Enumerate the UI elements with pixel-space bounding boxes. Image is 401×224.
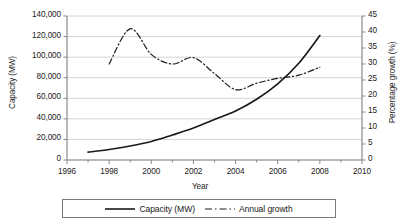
y-axis-right-tick-label: 0 xyxy=(368,154,401,163)
y-axis-right-tick-label: 5 xyxy=(368,138,401,147)
y-axis-right-tick-label: 40 xyxy=(368,26,401,35)
legend-label-annual-growth: Annual growth xyxy=(239,204,293,214)
x-axis-tick-label: 2008 xyxy=(300,167,340,176)
series-line-annual-growth xyxy=(109,29,320,90)
y-axis-left-tick-label: 40,000 xyxy=(9,113,61,122)
y-axis-right-tick-label: 30 xyxy=(368,58,401,67)
y-axis-right-tick-label: 10 xyxy=(368,122,401,131)
y-axis-left-tick-label: 120,000 xyxy=(9,31,61,40)
legend-item-annual-growth: Annual growth xyxy=(205,204,293,214)
series-line-capacity xyxy=(88,36,320,153)
y-axis-left-tick-label: 140,000 xyxy=(9,10,61,19)
x-axis-tick-label: 2000 xyxy=(131,167,171,176)
x-axis-tick-label: 2002 xyxy=(173,167,213,176)
x-axis-tick-label: 2010 xyxy=(342,167,382,176)
y-axis-right-tick-label: 45 xyxy=(368,10,401,19)
series-layer xyxy=(88,29,320,152)
y-axis-right-tick-label: 35 xyxy=(368,42,401,51)
y-axis-right-tick-label: 25 xyxy=(368,74,401,83)
y-axis-left-tick-label: 60,000 xyxy=(9,92,61,101)
y-axis-left-tick-label: 80,000 xyxy=(9,72,61,81)
x-axis-tick-label: 1998 xyxy=(89,167,129,176)
x-axis-tick-label: 2004 xyxy=(216,167,256,176)
legend-swatch-dashdot-icon xyxy=(205,205,235,213)
y-axis-right-tick-label: 20 xyxy=(368,90,401,99)
y-axis-right-tick-label: 15 xyxy=(368,106,401,115)
y-axis-left-tick-label: 0 xyxy=(9,154,61,163)
y-axis-left-tick-label: 20,000 xyxy=(9,133,61,142)
chart-figure: Capacity (MW) Percentage growth (%) Year… xyxy=(0,0,401,224)
x-axis-title: Year xyxy=(170,182,230,191)
legend-item-capacity: Capacity (MW) xyxy=(105,204,195,214)
axis-ticks xyxy=(64,16,366,164)
chart-legend: Capacity (MW) Annual growth xyxy=(62,199,336,218)
x-axis-tick-label: 2006 xyxy=(258,167,298,176)
legend-swatch-solid-icon xyxy=(105,205,135,213)
legend-label-capacity: Capacity (MW) xyxy=(139,204,195,214)
y-axis-left-tick-label: 100,000 xyxy=(9,51,61,60)
x-axis-tick-label: 1996 xyxy=(47,167,87,176)
